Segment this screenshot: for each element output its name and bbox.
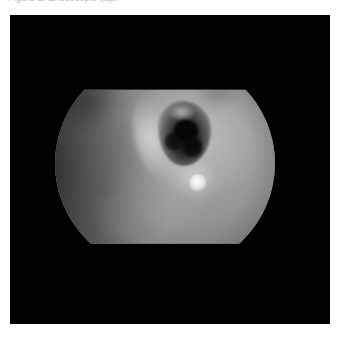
field-of-view	[55, 55, 275, 272]
clipped-caption-strip: Figure 1. Endoscopic view (a)	[0, 0, 340, 9]
endoscopic-image	[10, 15, 330, 324]
caption-badge: (a)	[101, 0, 112, 3]
photo-frame	[10, 15, 330, 324]
fov-vignette	[55, 55, 275, 272]
